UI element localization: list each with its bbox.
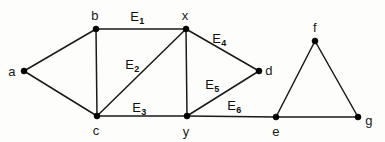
vertex-label-a: a (8, 65, 15, 78)
edge-label-E2: E2 (125, 58, 139, 71)
graph-edge-yd (187, 71, 259, 116)
edge-label-base-E6: E (227, 98, 236, 113)
edge-label-subscript-E3: 3 (141, 107, 146, 117)
graph-diagram: abcxydefg E1E2E3E4E5E6 (0, 0, 385, 142)
edge-label-base-E2: E (125, 57, 134, 72)
edge-label-base-E5: E (205, 77, 214, 92)
edge-label-base-E1: E (130, 9, 139, 24)
graph-edge-ef (276, 41, 315, 117)
edges-layer (24, 29, 358, 117)
vertex-label-d: d (265, 64, 272, 77)
edge-label-E5: E5 (205, 78, 219, 91)
graph-edge-ac (24, 71, 97, 116)
graph-edge-ye (187, 116, 276, 117)
edge-label-subscript-E5: 5 (214, 84, 219, 94)
edge-label-base-E4: E (212, 31, 221, 46)
graph-canvas (0, 0, 385, 142)
graph-vertex-a (21, 68, 27, 74)
graph-edge-xy (186, 29, 187, 116)
graph-vertex-f (312, 38, 318, 44)
graph-vertex-c (94, 113, 100, 119)
edge-label-E1: E1 (130, 10, 144, 23)
edge-label-subscript-E1: 1 (139, 16, 144, 26)
vertex-label-f: f (313, 21, 317, 34)
graph-edge-bc (96, 29, 97, 116)
edge-label-subscript-E4: 4 (221, 38, 226, 48)
vertex-label-c: c (93, 124, 100, 137)
graph-vertex-g (355, 114, 361, 120)
edge-label-E6: E6 (227, 99, 241, 112)
vertex-label-e: e (272, 125, 279, 138)
edge-label-subscript-E2: 2 (134, 64, 139, 74)
edge-label-E3: E3 (132, 101, 146, 114)
edge-label-subscript-E6: 6 (236, 105, 241, 115)
graph-vertex-d (256, 68, 262, 74)
nodes-layer (21, 26, 361, 120)
graph-vertex-y (184, 113, 190, 119)
graph-edge-ab (24, 29, 96, 71)
edge-label-E4: E4 (212, 32, 226, 45)
vertex-label-b: b (91, 9, 98, 22)
vertex-label-x: x (182, 9, 189, 22)
graph-edge-fg (315, 41, 358, 117)
vertex-label-y: y (183, 125, 190, 138)
graph-vertex-x (183, 26, 189, 32)
graph-vertex-e (273, 114, 279, 120)
edge-label-base-E3: E (132, 100, 141, 115)
graph-vertex-b (93, 26, 99, 32)
vertex-label-g: g (365, 114, 372, 127)
